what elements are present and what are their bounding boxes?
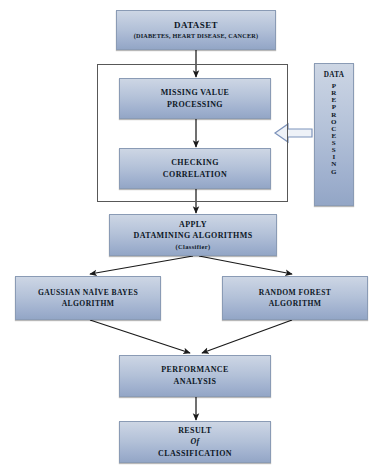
node-data-preprocessing-callout[interactable]: DATA PREPROCESSING [314, 63, 354, 206]
performance-line2: ANALYSIS [174, 376, 217, 388]
preprocessing-letter-12: G [331, 169, 337, 176]
result-line1: RESULT [178, 425, 212, 437]
node-checking-correlation[interactable]: CHECKING CORRELATION [119, 148, 271, 189]
node-apply-datamining-algorithms[interactable]: APPLY DATAMINING ALGORITHMS (Classifier) [109, 214, 277, 256]
apply-line2: DATAMINING ALGORITHMS [133, 230, 252, 242]
node-random-forest-algorithm[interactable]: RANDOM FOREST ALGORITHM [222, 276, 368, 320]
connector-apply-to-rf [199, 256, 292, 274]
rf-line2: ALGORITHM [269, 298, 322, 309]
checking-correlation-line1: CHECKING [171, 157, 219, 169]
gnb-line1: GAUSSIAN NAÏVE BAYES [38, 287, 138, 298]
connector-apply-to-gnb [90, 256, 193, 274]
gnb-line2: ALGORITHM [62, 298, 115, 309]
connector-gnb-to-performance [90, 320, 190, 353]
dataset-title: DATASET [174, 19, 218, 32]
performance-line1: PERFORMANCE [161, 364, 229, 376]
dataset-subtitle: (DIABETES, HEART DISEASE, CANCER) [134, 32, 258, 41]
node-gaussian-naive-bayes-algorithm[interactable]: GAUSSIAN NAÏVE BAYES ALGORITHM [15, 276, 161, 320]
rf-line1: RANDOM FOREST [259, 287, 332, 298]
apply-line3: (Classifier) [176, 242, 211, 251]
result-line3: CLASSIFICATION [158, 448, 232, 460]
node-missing-value-processing[interactable]: MISSING VALUE PROCESSING [119, 78, 271, 119]
connector-rf-to-performance [202, 320, 292, 353]
missing-value-line1: MISSING VALUE [161, 87, 230, 99]
apply-line1: APPLY [179, 219, 207, 231]
node-dataset[interactable]: DATASET (DIABETES, HEART DISEASE, CANCER… [116, 10, 276, 50]
preprocessing-vertical-label: PREPROCESSING [331, 83, 337, 176]
preprocessing-head: DATA [324, 71, 345, 79]
checking-correlation-line2: CORRELATION [163, 169, 227, 181]
missing-value-line2: PROCESSING [167, 99, 223, 111]
result-line2: Of [190, 436, 199, 448]
node-result-of-classification[interactable]: RESULT Of CLASSIFICATION [119, 421, 271, 463]
node-performance-analysis[interactable]: PERFORMANCE ANALYSIS [119, 355, 271, 397]
